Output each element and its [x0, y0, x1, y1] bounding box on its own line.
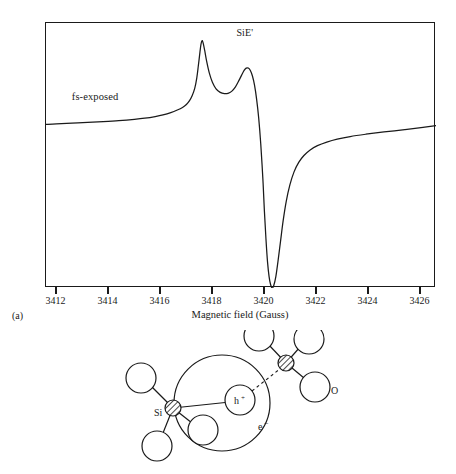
x-tick-label: 3414: [97, 295, 117, 306]
label-electron-superscript: −: [264, 419, 269, 428]
x-tick-label: 3418: [201, 295, 221, 306]
x-tick-mark: [107, 287, 108, 294]
hole-circle: [225, 385, 255, 415]
label-hole-superscript: +: [241, 394, 245, 402]
x-tick-mark: [367, 287, 368, 294]
oxygen-circle-right-lower: [300, 372, 330, 402]
x-tick-mark: [263, 287, 264, 294]
silicon-atom-right: [278, 355, 294, 371]
x-tick-mark: [419, 287, 420, 294]
x-tick-mark: [211, 287, 212, 294]
x-tick-mark: [159, 287, 160, 294]
oxygen-circle-left-lower: [142, 431, 172, 461]
species-label-sie-prime: SiE': [236, 27, 253, 38]
x-axis-title: Magnetic field (Gauss): [45, 309, 435, 320]
oxygen-circle-left-upper: [126, 363, 156, 393]
figure-root: fs-exposed SiE' 341234143416341834203422…: [0, 0, 456, 474]
panel-a-epr-spectrum: fs-exposed SiE' 341234143416341834203422…: [0, 0, 456, 330]
x-tick-mark: [55, 287, 56, 294]
x-axis: 34123414341634183420342234243426: [45, 287, 435, 327]
x-tick-label: 3412: [45, 295, 65, 306]
x-tick-label: 3424: [357, 295, 377, 306]
silicon-atom-left: [165, 400, 181, 416]
series-label-fs-exposed: fs-exposed: [72, 91, 119, 102]
label-si: Si: [154, 407, 163, 418]
defect-structure-drawing: Si O h + e −: [0, 330, 456, 474]
x-tick-label: 3416: [149, 295, 169, 306]
spectrum-curve: [46, 23, 436, 288]
dashed-interaction-line: [252, 368, 281, 391]
x-tick-label: 3422: [305, 295, 325, 306]
panel-b-structure-diagram: Si O h + e − (b): [0, 330, 456, 474]
oxygen-circle-right-upper: [294, 330, 324, 354]
panel-label-a: (a): [12, 310, 23, 321]
oxygen-circle-right-upper-left: [244, 330, 274, 351]
plot-frame: [45, 22, 435, 287]
x-tick-label: 3426: [409, 295, 429, 306]
x-tick-label: 3420: [253, 295, 273, 306]
oxygen-circle-left-inner: [188, 415, 218, 445]
label-electron: e: [258, 421, 263, 432]
x-tick-mark: [315, 287, 316, 294]
label-o: O: [331, 385, 338, 396]
label-hole: h: [234, 395, 239, 406]
